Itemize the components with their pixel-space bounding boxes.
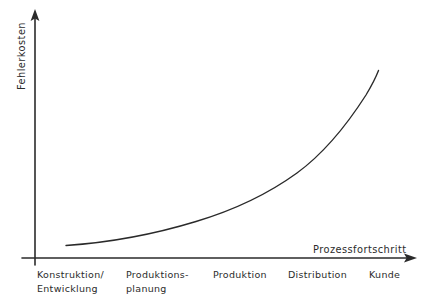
chart-figure: Fehlerkosten Prozessfortschritt Konstruk… — [0, 0, 423, 307]
category-label-line1: Produktion — [213, 269, 267, 280]
category-label-group: Konstruktion/ Entwicklung Produktions- p… — [37, 269, 400, 294]
cost-of-defects-chart: Fehlerkosten Prozessfortschritt Konstruk… — [0, 0, 423, 307]
category-label-distribution: Distribution — [288, 269, 347, 280]
category-label-produktionsplanung: Produktions- planung — [126, 269, 189, 294]
category-label-line1: Kunde — [369, 269, 400, 280]
category-label-line1: Konstruktion/ — [37, 269, 104, 280]
category-label-line2: Entwicklung — [37, 283, 98, 294]
category-label-line1: Produktions- — [126, 269, 189, 280]
y-axis-label: Fehlerkosten — [16, 22, 27, 90]
category-label-produktion: Produktion — [213, 269, 267, 280]
fehlerkosten-curve — [66, 71, 379, 246]
x-axis-label: Prozessfortschritt — [313, 244, 406, 255]
y-axis-group — [31, 9, 40, 265]
category-label-line1: Distribution — [288, 269, 347, 280]
category-label-line2: planung — [126, 283, 167, 294]
category-label-kunde: Kunde — [369, 269, 400, 280]
category-label-konstruktion-entwicklung: Konstruktion/ Entwicklung — [37, 269, 104, 294]
